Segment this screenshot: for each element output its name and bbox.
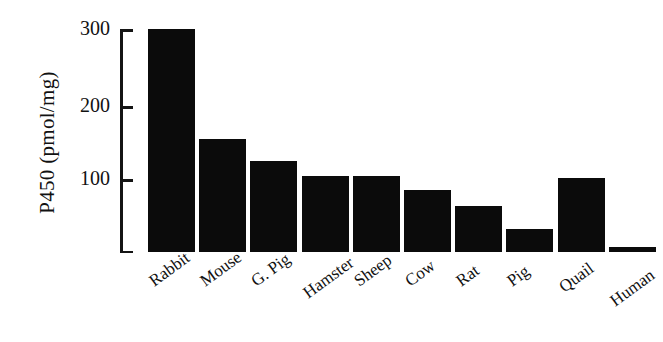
y-tick-300 (120, 29, 133, 32)
x-tick-label-g-pig: G. Pig (248, 250, 293, 289)
bar-cow (404, 190, 451, 252)
x-tick-label-human: Human (607, 266, 657, 309)
y-tick-label-100: 100 (54, 168, 110, 188)
bar-hamster (302, 176, 349, 252)
y-tick-200 (120, 106, 133, 109)
x-tick-label-rat: Rat (453, 262, 482, 290)
x-tick-label-pig: Pig (504, 262, 532, 289)
y-tick-label-300: 300 (54, 18, 110, 38)
x-tick-label-mouse: Mouse (197, 248, 244, 289)
x-tick-label-cow: Cow (402, 257, 438, 290)
bar-human (609, 247, 656, 252)
bar-rabbit (148, 29, 195, 252)
x-tick-label-rabbit: Rabbit (146, 249, 193, 289)
x-tick-label-quail: Quail (556, 259, 597, 295)
figure-root: P450 (pmol/mg) 300 200 100 RabbitMouseG.… (0, 0, 663, 342)
y-tick-baseline (120, 251, 133, 254)
y-tick-100 (120, 179, 133, 182)
bar-mouse (199, 139, 246, 252)
y-axis-spine (120, 29, 123, 253)
bar-rat (455, 206, 502, 252)
bar-g-pig (250, 161, 297, 252)
bar-pig (506, 229, 553, 252)
bar-sheep (353, 176, 400, 252)
x-tick-label-hamster: Hamster (300, 254, 357, 302)
plot-area: 300 200 100 RabbitMouseG. PigHamsterShee… (0, 0, 663, 342)
x-tick-label-sheep: Sheep (351, 251, 395, 289)
y-tick-label-200: 200 (54, 95, 110, 115)
bar-quail (558, 178, 605, 252)
